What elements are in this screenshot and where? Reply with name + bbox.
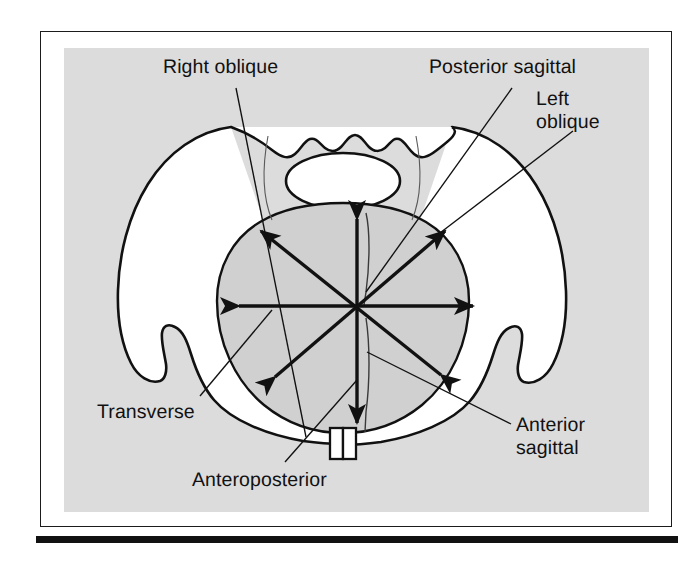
label-right-oblique: Right oblique [163, 56, 278, 79]
label-posterior-sagittal: Posterior sagittal [429, 56, 576, 79]
bottom-rule-bar [36, 536, 678, 543]
label-anterior-sagittal: Anterior sagittal [516, 414, 585, 460]
pubic-symphysis [330, 428, 356, 459]
label-left-oblique: Left oblique [536, 88, 600, 134]
figure-root: Right oblique Posterior sagittal Left ob… [0, 0, 693, 564]
label-anteroposterior: Anteroposterior [192, 469, 327, 492]
sacral-body-oval [286, 153, 400, 209]
pelvis-diagram [0, 0, 693, 564]
label-transverse: Transverse [97, 401, 195, 424]
